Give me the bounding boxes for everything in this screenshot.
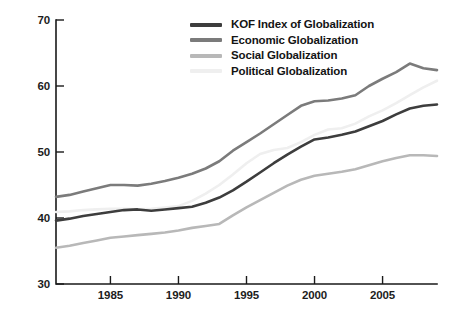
legend-swatch-social-globalization [190,54,222,58]
x-axis-label-1985: 1985 [98,289,123,301]
legend-swatch-political-globalization [190,69,222,73]
legend-item-political-globalization[interactable]: Political Globalization [190,64,440,80]
y-axis-label-40: 40 [22,212,50,224]
x-axis-label-2005: 2005 [370,289,395,301]
legend-label-kof-index-of-globalization: KOF Index of Globalization [231,19,374,31]
series-line-economic-globalization [56,64,437,197]
legend-label-political-globalization: Political Globalization [231,66,347,78]
x-axis-label-2000: 2000 [302,289,327,301]
series-line-social-globalization [56,155,437,247]
y-axis-label-70: 70 [22,14,50,26]
legend-item-social-globalization[interactable]: Social Globalization [190,48,440,64]
legend-item-economic-globalization[interactable]: Economic Globalization [190,33,440,49]
y-axis-label-50: 50 [22,146,50,158]
x-axis-label-1990: 1990 [166,289,191,301]
x-axis-label-1995: 1995 [234,289,259,301]
legend-label-economic-globalization: Economic Globalization [231,35,358,47]
legend-swatch-economic-globalization [190,38,222,42]
legend-swatch-kof-index-of-globalization [190,23,222,27]
chart-legend: KOF Index of GlobalizationEconomic Globa… [190,17,440,79]
legend-item-kof-index-of-globalization[interactable]: KOF Index of Globalization [190,17,440,33]
chart-series-lines [56,64,437,248]
series-line-political-globalization [56,81,437,212]
y-axis-label-30: 30 [22,278,50,290]
y-axis-label-60: 60 [22,80,50,92]
legend-label-social-globalization: Social Globalization [231,50,337,62]
chart-container: 7060504030 19851990199520002005 KOF Inde… [0,0,457,317]
